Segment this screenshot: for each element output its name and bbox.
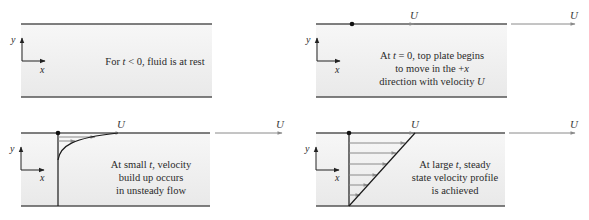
panel-description-line-1: At t = 0, top plate begins xyxy=(380,50,484,61)
panel-description-line-1: At small t, velocity xyxy=(111,159,192,170)
y-axis-label: y xyxy=(305,34,311,45)
velocity-label: U xyxy=(411,118,420,130)
panel-description-line-2: to move in the +x xyxy=(395,63,469,74)
panel-description-line-3: in unsteady flow xyxy=(116,185,186,196)
velocity-label: U xyxy=(570,9,579,21)
panel-description: For t < 0, fluid is at rest xyxy=(105,56,204,67)
reference-point xyxy=(56,131,61,136)
velocity-label: U xyxy=(570,118,579,130)
panel-description-line-2: state velocity profile xyxy=(412,172,499,183)
x-axis-label: x xyxy=(39,64,45,75)
y-axis-label: y xyxy=(10,34,16,45)
panel-description-line-1: At large t, steady xyxy=(419,159,491,170)
panel-large-t: U U y x At large t, steady state velocit… xyxy=(304,118,579,206)
velocity-label: U xyxy=(117,118,126,130)
reference-point xyxy=(347,131,352,136)
x-axis-label: x xyxy=(39,172,45,183)
x-axis-label: x xyxy=(334,64,340,75)
y-axis-label: y xyxy=(9,143,15,154)
panel-description-line-3: is achieved xyxy=(432,185,480,196)
panel-description-line-2: build up occurs xyxy=(119,172,184,183)
velocity-label: U xyxy=(410,9,419,21)
panel-description-line-3: direction with velocity U xyxy=(379,76,486,87)
velocity-label: U xyxy=(276,118,285,130)
x-axis-label: x xyxy=(334,172,340,183)
panel-small-t: U U y x At small t, velocity build up oc… xyxy=(9,118,285,206)
couette-flow-diagram: y x For t < 0, fluid is at rest U U y x … xyxy=(0,0,589,220)
y-axis-label: y xyxy=(304,143,310,154)
panel-rest: y x For t < 0, fluid is at rest xyxy=(10,24,212,97)
panel-start: U U y x At t = 0, top plate begins to mo… xyxy=(305,9,579,97)
reference-point xyxy=(350,22,355,27)
